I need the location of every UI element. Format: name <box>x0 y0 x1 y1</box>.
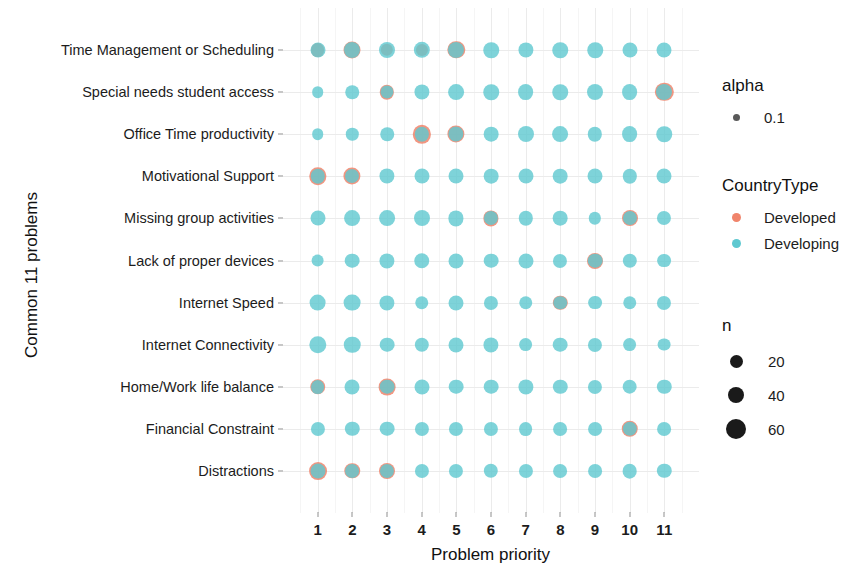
x-axis-tick-label: 1 <box>314 521 322 538</box>
y-axis-tick-mark <box>278 176 283 177</box>
legend-country-type-row[interactable]: Developed <box>722 204 839 230</box>
legend-n-swatch <box>722 419 750 439</box>
bubble-developing <box>344 42 360 58</box>
bubble-developing <box>345 379 360 394</box>
x-axis-title: Problem priority <box>283 545 698 565</box>
bubble-developing <box>657 464 671 478</box>
y-axis-tick-mark <box>278 92 283 93</box>
legend-n: n 204060 <box>722 316 785 446</box>
y-axis-tick-label: Financial Constraint <box>146 421 274 437</box>
legend-dot-icon <box>730 355 743 368</box>
legend-country-type: CountryType DevelopedDeveloping <box>722 176 839 256</box>
bubble-developing <box>449 211 464 226</box>
legend-alpha-label: 0.1 <box>764 109 785 126</box>
bubble-developing <box>309 336 326 353</box>
y-axis-tick-mark <box>278 344 283 345</box>
bubble-developing <box>553 337 568 352</box>
bubble-developing <box>379 295 394 310</box>
x-axis-tick-label: 5 <box>452 521 460 538</box>
x-axis-tick-mark <box>595 512 596 517</box>
bubble-developing <box>449 464 463 478</box>
legend-dot-icon <box>733 114 740 121</box>
bubble-developing <box>414 85 429 100</box>
bubble-developing <box>588 127 602 141</box>
bubble-developing <box>553 84 569 100</box>
bubble-developing <box>518 126 534 142</box>
y-axis-tick-label: Lack of proper devices <box>128 253 274 269</box>
bubble-developing <box>310 211 325 226</box>
legend-country-type-items: DevelopedDeveloping <box>722 204 839 256</box>
legend-n-items: 204060 <box>722 344 785 446</box>
bubble-developing <box>483 42 499 58</box>
bubble-developing <box>518 84 534 100</box>
bubble-developing <box>346 85 360 99</box>
x-axis-tick-label: 7 <box>522 521 530 538</box>
legend-n-row[interactable]: 20 <box>722 344 785 378</box>
x-axis-tick-label: 6 <box>487 521 495 538</box>
bubble-developing <box>484 422 498 436</box>
legend-dot-icon <box>732 239 741 248</box>
y-axis-tick-label: Internet Connectivity <box>142 337 274 353</box>
legend-n-row[interactable]: 60 <box>722 412 785 446</box>
bubble-developing <box>344 336 361 353</box>
y-axis-tick-label: Special needs student access <box>82 84 274 100</box>
bubble-developing <box>379 210 395 226</box>
bubble-developing <box>657 211 671 225</box>
bubble-developing <box>483 337 498 352</box>
bubble-developing <box>414 42 430 58</box>
legend-country-type-row[interactable]: Developing <box>722 230 839 256</box>
x-axis-tick-label: 2 <box>348 521 356 538</box>
bubble-developing <box>414 253 430 269</box>
bubble-developing <box>345 422 359 436</box>
bubble-developing <box>588 464 602 478</box>
legend-dot-icon <box>726 419 746 439</box>
bubble-developing <box>622 84 638 100</box>
bubble-developing <box>657 127 673 143</box>
bubble-developing <box>518 43 533 58</box>
bubble-developing <box>518 211 532 225</box>
legend-country-type-label: Developing <box>764 235 839 252</box>
bubble-developing <box>622 169 636 183</box>
legend-n-row[interactable]: 40 <box>722 378 785 412</box>
x-axis-tick-mark <box>560 512 561 517</box>
bubble-developing <box>589 212 601 224</box>
bubble-developing <box>311 422 325 436</box>
bubble-developing <box>588 253 603 268</box>
y-axis-tick-mark <box>278 386 283 387</box>
x-axis-tick-mark <box>456 512 457 517</box>
bubble-developing <box>414 379 429 394</box>
bubble-developing <box>519 338 533 352</box>
bubble-developing <box>484 464 498 478</box>
bubble-developing <box>483 84 499 100</box>
bubble-developing <box>414 337 428 351</box>
legend-alpha-row[interactable]: 0.1 <box>722 104 785 130</box>
legend-country-type-swatch <box>722 239 750 248</box>
y-axis-tick-label: Internet Speed <box>179 295 274 311</box>
bubble-developing <box>588 380 602 394</box>
bubble-developing <box>657 254 671 268</box>
legend-alpha: alpha 0.1 <box>722 76 785 130</box>
bubble-developing <box>588 169 603 184</box>
bubble-developing <box>622 464 637 479</box>
x-axis-tick-mark <box>629 512 630 517</box>
bubble-developing <box>380 128 394 142</box>
legend-n-label: 60 <box>768 421 785 438</box>
legend-dot-icon <box>728 387 744 403</box>
bubble-developing <box>379 169 394 184</box>
bubble-developing <box>449 295 464 310</box>
y-axis-tick-mark <box>278 134 283 135</box>
x-axis-tick-label: 8 <box>556 521 564 538</box>
bubble-developing <box>588 422 602 436</box>
x-axis-tick-mark <box>421 512 422 517</box>
y-axis-tick-labels: Time Management or SchedulingSpecial nee… <box>0 0 274 530</box>
bubble-developing <box>380 379 395 394</box>
bubble-developing <box>344 294 361 311</box>
bubble-developing <box>623 296 637 310</box>
x-axis-tick-mark <box>352 512 353 517</box>
bubble-developing <box>553 169 568 184</box>
bubble-developing <box>448 42 464 58</box>
y-axis-tick-label: Time Management or Scheduling <box>61 42 274 58</box>
legend-n-swatch <box>722 387 750 403</box>
legend-country-type-swatch <box>722 213 750 222</box>
bubble-developing <box>657 169 672 184</box>
